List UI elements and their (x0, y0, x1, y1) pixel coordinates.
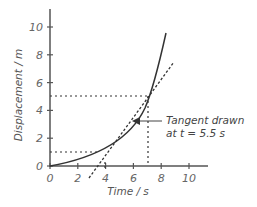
tangent-line (89, 62, 174, 178)
axis-ticks: 02468100246810 (29, 21, 196, 185)
x-tick-label: 2 (74, 172, 81, 185)
x-axis-label: Time / s (107, 185, 149, 197)
displacement-time-chart: 02468100246810 Tangent drawn at t = 5.5 … (0, 0, 257, 207)
x-tick-label: 8 (158, 172, 165, 185)
x-tick-label: 10 (182, 172, 196, 185)
x-tick-label: 6 (130, 172, 137, 185)
annotation-line1: Tangent drawn (166, 114, 244, 126)
y-tick-label: 4 (36, 104, 43, 117)
y-tick-label: 2 (36, 132, 43, 145)
x-tick-label: 4 (102, 172, 109, 185)
guide-lines (50, 96, 148, 166)
y-tick-label: 10 (29, 21, 43, 34)
y-axis-label: Displacement / m (12, 49, 24, 142)
annotation-line2: at t = 5.5 s (166, 127, 226, 139)
x-tick-label: 0 (47, 172, 54, 185)
y-tick-label: 8 (36, 49, 43, 62)
y-tick-label: 0 (36, 160, 43, 173)
displacement-curve (50, 33, 166, 166)
y-tick-label: 6 (36, 77, 43, 90)
